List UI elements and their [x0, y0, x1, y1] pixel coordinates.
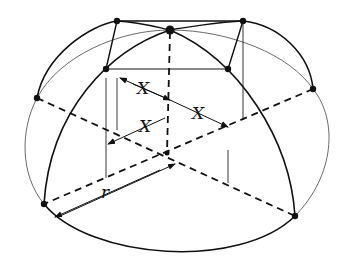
back-arcs — [25, 30, 329, 216]
dome-diagram — [0, 0, 351, 272]
vertices — [34, 18, 316, 219]
label-x-left: X — [139, 118, 151, 135]
cap-edges — [106, 21, 243, 69]
label-x-right: X — [192, 105, 204, 122]
label-radius: r — [101, 184, 109, 201]
dashed-axes — [37, 32, 313, 216]
label-x-top: X — [137, 80, 149, 97]
dimension-arrows — [55, 78, 228, 217]
